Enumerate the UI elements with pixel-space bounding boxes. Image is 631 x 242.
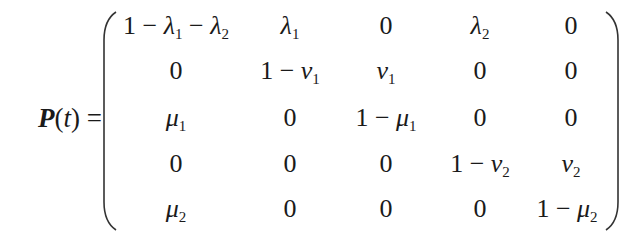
matrix-cell: 0 (565, 103, 578, 133)
matrix-cell: ν2 (561, 149, 580, 181)
matrix-cell: ν1 (376, 56, 395, 88)
matrix-cell: 0 (474, 103, 487, 133)
matrix-cell: 0 (474, 194, 487, 224)
matrix-cell: λ1 (281, 11, 300, 43)
left-paren-bracket (100, 10, 118, 232)
matrix-cell: 1 − μ1 (355, 103, 416, 135)
matrix-symbol: P (38, 103, 55, 133)
matrix-cell: 0 (565, 11, 578, 41)
matrix-lhs: P(t) = (38, 103, 102, 134)
time-variable: t (64, 103, 72, 133)
matrix-cell: μ2 (166, 194, 187, 226)
matrix-cell: 1 − ν1 (260, 56, 320, 88)
matrix-cell: 0 (170, 149, 183, 179)
matrix-cell: 0 (565, 56, 578, 86)
matrix-cell: 1 − μ2 (536, 194, 597, 226)
matrix-cell: 0 (284, 103, 297, 133)
matrix-cell: 0 (380, 11, 393, 41)
matrix-cell: λ2 (471, 11, 490, 43)
matrix-cell: 0 (380, 149, 393, 179)
matrix-cell: 0 (170, 56, 183, 86)
matrix-cell: 0 (284, 194, 297, 224)
matrix-cell: 1 − ν2 (450, 149, 510, 181)
close-paren: ) (71, 103, 80, 133)
matrix-cell: 0 (284, 149, 297, 179)
open-paren: ( (55, 103, 64, 133)
right-paren-bracket (604, 10, 622, 232)
matrix-cell: 1 − λ1 − λ2 (123, 11, 229, 43)
matrix-cell: 0 (474, 56, 487, 86)
matrix-cell: μ1 (166, 103, 187, 135)
matrix-cell: 0 (380, 194, 393, 224)
